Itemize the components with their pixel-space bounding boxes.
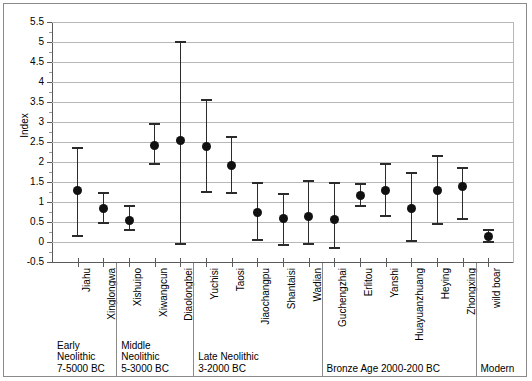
error-bar-cap-lower <box>149 163 160 165</box>
gridline <box>52 62 514 63</box>
error-bar-cap-lower <box>380 215 391 217</box>
data-point <box>330 215 339 224</box>
x-tick-label-text: Yanshi <box>390 268 400 298</box>
gridline <box>52 82 514 83</box>
error-bar-cap-lower <box>329 247 340 249</box>
x-tick-label-text: Huayuanzhuang <box>415 268 425 341</box>
x-tick-label-text: Yuchisi <box>210 268 220 300</box>
gridline <box>52 142 514 143</box>
x-tick-label-text: Shantaisi <box>287 268 297 309</box>
error-bar-cap-lower <box>98 222 109 224</box>
data-point <box>356 191 365 200</box>
period-separator <box>193 263 194 377</box>
y-tick-label: 3.5 <box>14 97 44 107</box>
period-group-label: Late Neolithic 3-2000 BC <box>198 351 320 374</box>
x-tick-label: Taosi <box>236 268 246 291</box>
data-point <box>125 216 134 225</box>
gridline <box>52 182 514 183</box>
gridline <box>52 42 514 43</box>
error-bar-cap-upper <box>380 163 391 165</box>
x-tick-label-text: Jiahu <box>82 268 92 292</box>
y-tick-label: 5.5 <box>14 17 44 27</box>
error-bar-cap-lower <box>457 218 468 220</box>
error-bar-cap-lower <box>303 243 314 245</box>
error-bar-cap-lower <box>432 223 443 225</box>
error-bar-cap-upper <box>483 229 494 231</box>
y-tick <box>47 262 52 263</box>
y-tick-label: 3 <box>14 117 44 127</box>
x-tick-label: Erlitou <box>364 268 374 296</box>
error-bar-cap-upper <box>329 182 340 184</box>
x-tick <box>180 258 181 267</box>
data-point <box>279 214 288 223</box>
gridline <box>52 102 514 103</box>
x-tick <box>206 258 207 267</box>
error-bar-cap-upper <box>175 41 186 43</box>
x-tick-label-text: Guchengzhai <box>338 268 348 327</box>
y-tick-label: 5 <box>14 37 44 47</box>
y-tick <box>47 202 52 203</box>
error-bar-cap-lower <box>355 205 366 207</box>
data-point <box>202 142 211 151</box>
y-tick-minor <box>49 92 52 93</box>
error-bar-cap-lower <box>226 192 237 194</box>
y-tick-minor <box>49 212 52 213</box>
period-group-label: Early Neolithic 7-5000 BC <box>57 340 115 375</box>
x-tick <box>232 258 233 267</box>
error-bar-cap-upper <box>278 193 289 195</box>
error-bar-cap-upper <box>457 167 468 169</box>
y-tick <box>47 22 52 23</box>
y-tick-minor <box>49 32 52 33</box>
x-tick-label: Jiaochangpu <box>261 268 271 325</box>
x-tick-label: Guchengzhai <box>338 268 348 327</box>
y-tick-label: 0 <box>14 237 44 247</box>
y-tick <box>47 82 52 83</box>
period-separator <box>476 263 477 377</box>
x-tick-label-text: Heying <box>441 268 451 299</box>
data-point <box>176 136 185 145</box>
error-bar-cap-upper <box>432 155 443 157</box>
x-tick <box>103 258 104 267</box>
error-bar-cap-upper <box>226 136 237 138</box>
x-tick-label-text: Xishuipo <box>133 268 143 306</box>
y-tick-label: 4 <box>14 77 44 87</box>
error-bar-cap-lower <box>483 241 494 243</box>
data-point <box>304 212 313 221</box>
x-tick-label: wild boar <box>492 268 502 308</box>
x-tick <box>386 258 387 267</box>
error-bar-cap-upper <box>303 180 314 182</box>
x-tick-label: Heying <box>441 268 451 299</box>
data-point <box>433 186 442 195</box>
period-separator <box>322 263 323 377</box>
y-tick-minor <box>49 152 52 153</box>
error-bar-cap-lower <box>278 244 289 246</box>
error-bar-cap-lower <box>252 239 263 241</box>
y-tick <box>47 102 52 103</box>
y-tick-minor <box>49 172 52 173</box>
x-tick <box>437 258 438 267</box>
y-tick-label: 4.5 <box>14 57 44 67</box>
x-tick-label-text: Taosi <box>236 268 246 291</box>
y-tick-label: -0.5 <box>14 257 44 267</box>
error-bar-cap-upper <box>201 99 212 101</box>
y-tick <box>47 122 52 123</box>
error-bar-cap-lower <box>72 235 83 237</box>
x-tick <box>129 258 130 267</box>
y-tick-minor <box>49 72 52 73</box>
x-tick <box>488 258 489 267</box>
x-tick <box>309 258 310 267</box>
error-bar-cap-upper <box>72 147 83 149</box>
y-tick-minor <box>49 192 52 193</box>
error-bar-cap-lower <box>175 243 186 245</box>
error-bar-cap-upper <box>406 172 417 174</box>
data-point <box>484 232 493 241</box>
error-bar-cap-upper <box>124 205 135 207</box>
gridline <box>52 22 514 23</box>
y-tick-minor <box>49 132 52 133</box>
error-bar-cap-lower <box>124 229 135 231</box>
x-tick-label-text: Jiaochangpu <box>261 268 271 325</box>
data-point <box>253 208 262 217</box>
x-tick <box>283 258 284 267</box>
y-tick <box>47 242 52 243</box>
x-tick <box>78 258 79 267</box>
